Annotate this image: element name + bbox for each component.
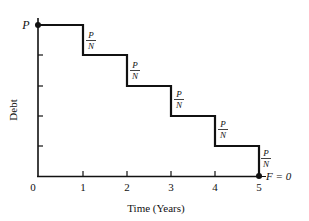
svg-text:0: 0 xyxy=(30,181,36,193)
debt-step-line xyxy=(38,25,259,177)
start-point xyxy=(35,22,41,28)
svg-text:3: 3 xyxy=(168,181,174,193)
start-label: P xyxy=(21,18,30,32)
svg-text:N: N xyxy=(219,130,227,140)
x-ticks xyxy=(83,171,215,176)
step-label: P N xyxy=(174,89,184,110)
step-label: P N xyxy=(261,148,271,169)
step-label: P N xyxy=(218,119,228,140)
svg-text:P: P xyxy=(87,30,94,40)
end-label: F = 0 xyxy=(265,170,292,182)
svg-text:P: P xyxy=(175,89,182,99)
debt-step-chart: 0 1 2 3 4 5 Time (Years) Debt P F = 0 P … xyxy=(0,0,309,221)
svg-text:2: 2 xyxy=(124,181,130,193)
svg-text:N: N xyxy=(87,41,95,51)
svg-text:P: P xyxy=(219,119,226,129)
svg-text:N: N xyxy=(262,159,270,169)
step-label: P N xyxy=(86,30,96,51)
svg-text:N: N xyxy=(175,100,183,110)
svg-text:5: 5 xyxy=(256,181,262,193)
svg-text:1: 1 xyxy=(80,181,86,193)
x-tick-labels: 0 1 2 3 4 5 xyxy=(30,181,262,193)
step-label: P N xyxy=(130,60,140,81)
svg-text:P: P xyxy=(262,148,269,158)
x-axis-label: Time (Years) xyxy=(127,202,185,215)
y-axis-label: Debt xyxy=(7,99,19,120)
svg-text:P: P xyxy=(131,60,138,70)
svg-text:4: 4 xyxy=(212,181,218,193)
svg-text:N: N xyxy=(131,71,139,81)
